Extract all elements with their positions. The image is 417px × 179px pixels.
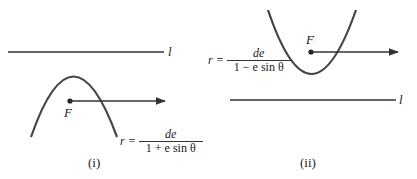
equation-ii: r = de 1 − e sin θ [208,47,291,74]
directrix-label-i: l [168,44,172,60]
equation-lhs-ii: r = [208,53,224,68]
caption-ii: (ii) [300,155,316,171]
diagram-canvas [0,0,417,179]
equation-denominator-i: 1 + e sin θ [144,142,198,155]
focus-label-i: F [64,105,72,121]
parabola-i [31,77,117,138]
caption-i: (i) [88,155,100,171]
equation-denominator-ii: 1 − e sin θ [232,61,286,74]
directrix-label-ii: l [399,92,403,108]
equation-numerator-ii: de [227,47,291,61]
focus-label-ii: F [306,32,314,48]
equation-i: r = de 1 + e sin θ [120,128,203,155]
equation-numerator-i: de [139,128,203,142]
equation-lhs-i: r = [120,134,136,149]
